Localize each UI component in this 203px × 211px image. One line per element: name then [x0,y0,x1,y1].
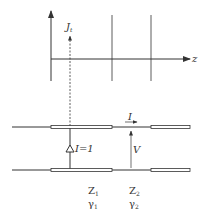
voltage-label: V [133,144,142,155]
current-source [66,129,74,169]
impedance-label-1: Z1 [88,185,99,197]
z-axis-label: z [191,53,198,64]
propagation-label-2: γ2 [129,198,139,210]
bottom-conductor [12,169,190,172]
propagation-label-1: γ1 [88,198,98,210]
line-current-label: I [127,111,133,122]
source-label-J: Jt [64,21,73,33]
current-source-triangle-icon [66,145,74,152]
current-source-label: I=1 [74,143,94,154]
transmission-line-diagram: z Jt I=1 I V Z1 γ1 Z2 γ2 [0,0,203,211]
impedance-label-2: Z2 [129,185,140,197]
top-conductor [12,126,190,129]
